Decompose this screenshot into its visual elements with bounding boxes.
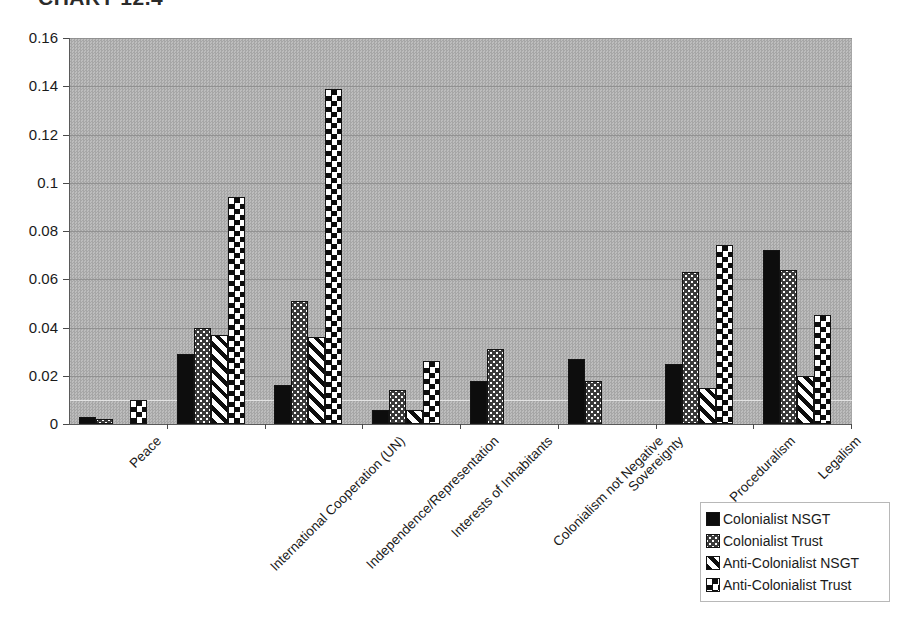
legend-swatch: [706, 578, 720, 592]
legend-item: Colonialist Trust: [706, 530, 885, 552]
legend-swatch: [706, 534, 720, 548]
bar: [372, 410, 389, 424]
legend-label: Colonialist Trust: [723, 533, 823, 549]
y-axis-tick-label: 0.02: [0, 368, 58, 383]
x-axis-tick-label: Proceduralism: [728, 434, 799, 505]
legend-label: Anti-Colonialist Trust: [723, 577, 851, 593]
bars-layer: [70, 38, 852, 424]
bar: [780, 270, 797, 424]
chart-figure: CHART 12.4 0.160.140.120.10.080.060.040.…: [0, 0, 908, 628]
bar: [665, 364, 682, 424]
bar: [274, 385, 291, 424]
bar: [325, 89, 342, 424]
bar: [406, 410, 423, 424]
bar: [211, 335, 228, 424]
y-axis-tick-label: 0.06: [0, 271, 58, 286]
y-axis-tick-label: 0.14: [0, 78, 58, 93]
bar: [194, 328, 211, 425]
legend-item: Colonialist NSGT: [706, 508, 885, 530]
bar: [130, 400, 147, 424]
chart-legend: Colonialist NSGTColonialist TrustAnti-Co…: [700, 502, 890, 602]
bar: [814, 315, 831, 424]
x-axis-tick-label: Peace: [127, 434, 164, 471]
bar: [797, 376, 814, 424]
x-axis-tick-label: Colonialism not Negative: [551, 434, 666, 549]
bar: [389, 390, 406, 424]
bar: [568, 359, 585, 424]
legend-swatch: [706, 556, 720, 570]
x-axis-tick-label: Independence/Representation: [364, 434, 502, 572]
y-axis-tick-label: 0.04: [0, 320, 58, 335]
plot-area: [69, 38, 852, 425]
x-axis-tick-label: Interests of Inhabitants: [449, 434, 555, 540]
x-axis-tick-label: Legalism: [816, 434, 864, 482]
bar: [423, 361, 440, 424]
x-axis-tick-label: Sovereignty: [626, 434, 686, 494]
bar: [96, 419, 113, 424]
bar: [716, 245, 733, 424]
bar: [682, 272, 699, 424]
bar: [79, 417, 96, 424]
bar: [585, 381, 602, 424]
bar: [177, 354, 194, 424]
bar: [487, 349, 504, 424]
chart-title: CHART 12.4: [38, 0, 163, 10]
bar: [291, 301, 308, 424]
legend-label: Anti-Colonialist NSGT: [723, 555, 859, 571]
bar: [228, 197, 245, 424]
bar: [470, 381, 487, 424]
y-axis-tick-label: 0.1: [0, 175, 58, 190]
x-axis-tick-label: International Cooperation (UN): [267, 434, 407, 574]
legend-item: Anti-Colonialist Trust: [706, 574, 885, 596]
legend-swatch: [706, 512, 720, 526]
y-axis-tick-label: 0.12: [0, 127, 58, 142]
bar: [763, 250, 780, 424]
bar: [308, 337, 325, 424]
y-axis-tick-label: 0: [0, 416, 58, 431]
bar: [699, 388, 716, 424]
y-axis-tick-label: 0.16: [0, 30, 58, 45]
legend-label: Colonialist NSGT: [723, 511, 830, 527]
y-axis-tick-label: 0.08: [0, 223, 58, 238]
legend-item: Anti-Colonialist NSGT: [706, 552, 885, 574]
